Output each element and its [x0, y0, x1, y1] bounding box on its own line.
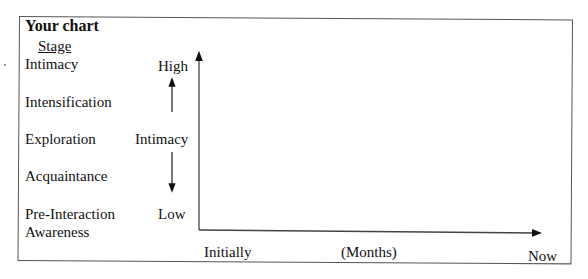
x-axis-arrow-icon [199, 230, 537, 233]
chart-axes [0, 0, 588, 279]
